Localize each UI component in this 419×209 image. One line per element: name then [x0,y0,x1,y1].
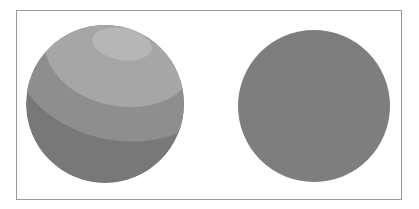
spheres-illustration [0,0,419,209]
flat-shaded-sphere [238,30,390,182]
banded-shaded-sphere [1,0,235,183]
